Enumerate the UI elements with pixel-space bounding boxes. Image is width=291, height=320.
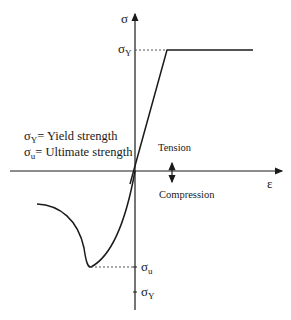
legend-ultimate: σu= Ultimate strength [24, 146, 133, 159]
bottom-yield-label: σY [141, 285, 155, 298]
ultimate-level-label: σu [141, 260, 153, 273]
compression-curve [37, 171, 135, 267]
epsilon-axis-label: ε [267, 177, 272, 190]
sigma-axis-label: σ [121, 12, 128, 25]
top-yield-label: σY [118, 42, 132, 55]
legend-yield: σY= Yield strength [24, 130, 117, 143]
tension-curve [130, 50, 253, 184]
compression-label: Compression [159, 190, 214, 201]
tension-label: Tension [158, 143, 191, 154]
